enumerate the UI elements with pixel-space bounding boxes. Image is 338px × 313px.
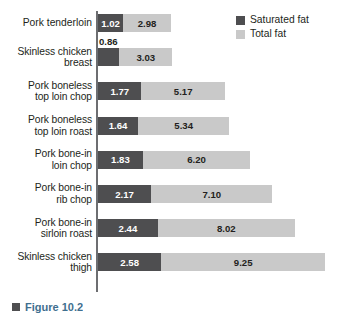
bar-segment-total-fat: 8.02 xyxy=(158,219,295,237)
bar-row: Pork boneless top loin roast1.645.34 xyxy=(0,117,338,148)
bar-value-total-fat: 8.02 xyxy=(217,223,236,234)
figure-caption-marker-icon xyxy=(12,303,20,311)
legend-item-saturated-fat: Saturated fat xyxy=(236,14,309,26)
bar-value-saturated-fat: 2.44 xyxy=(119,223,138,234)
bar-segment-total-fat: 9.25 xyxy=(161,253,325,271)
bar-value-saturated-fat: 1.83 xyxy=(111,154,130,165)
bar-segment-saturated-fat: 2.17 xyxy=(98,185,151,203)
bar-value-saturated-fat: 2.58 xyxy=(120,257,139,268)
bar-segment-saturated-fat: 1.02 xyxy=(98,14,123,32)
stacked-bar: 1.645.34 xyxy=(98,117,229,135)
bar-value-total-fat: 3.03 xyxy=(136,52,155,63)
stacked-bar: 1.022.98 xyxy=(98,14,171,32)
legend-item-total-fat: Total fat xyxy=(236,28,309,40)
bar-value-total-fat: 2.98 xyxy=(138,18,157,29)
category-label: Pork boneless top loin roast xyxy=(0,114,92,137)
bar-segment-total-fat: 3.03 xyxy=(119,48,172,66)
stacked-bar: 2.177.10 xyxy=(98,185,272,203)
bar-segment-saturated-fat: 1.83 xyxy=(98,151,143,169)
stacked-bar: 2.589.25 xyxy=(98,253,325,271)
bar-segment-saturated-fat: 1.77 xyxy=(98,82,141,100)
bar-value-saturated-fat: 1.02 xyxy=(101,18,120,29)
bar-value-saturated-fat: 0.86 xyxy=(99,36,118,47)
bar-row: Pork bone-in sirloin roast2.448.02 xyxy=(0,219,338,250)
category-label: Skinless chicken breast xyxy=(0,46,92,69)
category-label: Pork boneless top loin chop xyxy=(0,80,92,103)
bar-row: Pork bone-in rib chop2.177.10 xyxy=(0,185,338,216)
stacked-bar: 2.448.02 xyxy=(98,219,295,237)
bar-value-total-fat: 5.17 xyxy=(174,86,193,97)
legend-swatch-icon-saturated-fat xyxy=(236,16,245,25)
bar-segment-total-fat: 7.10 xyxy=(151,185,272,203)
bar-segment-total-fat: 5.17 xyxy=(141,82,224,100)
bar-segment-total-fat: 5.34 xyxy=(138,117,229,135)
figure-caption: Figure 10.2 xyxy=(12,300,83,313)
bar-segment-saturated-fat: 2.44 xyxy=(98,219,158,237)
bar-value-total-fat: 6.20 xyxy=(187,154,206,165)
bar-row: Pork boneless top loin chop1.775.17 xyxy=(0,82,338,113)
bar-value-total-fat: 9.25 xyxy=(234,257,253,268)
bar-value-saturated-fat: 1.77 xyxy=(110,86,129,97)
plot-area: Pork tenderloin1.022.98Skinless chicken … xyxy=(0,0,338,292)
fat-content-bar-chart: Pork tenderloin1.022.98Skinless chicken … xyxy=(0,0,338,313)
legend-label-total-fat: Total fat xyxy=(250,28,286,40)
category-label: Pork bone-in sirloin roast xyxy=(0,217,92,240)
category-label: Pork tenderloin xyxy=(0,17,92,29)
stacked-bar: 1.836.20 xyxy=(98,151,250,169)
bar-row: Skinless chicken thigh2.589.25 xyxy=(0,253,338,284)
bar-value-total-fat: 5.34 xyxy=(174,120,193,131)
chart-legend: Saturated fat Total fat xyxy=(236,14,309,42)
figure-caption-label: Figure 10.2 xyxy=(25,301,83,313)
category-label: Pork bone-in rib chop xyxy=(0,182,92,205)
category-label: Pork bone-in loin chop xyxy=(0,148,92,171)
bar-segment-saturated-fat: 1.64 xyxy=(98,117,138,135)
bar-value-saturated-fat: 1.64 xyxy=(109,120,128,131)
bar-segment-saturated-fat xyxy=(98,48,119,66)
bar-segment-total-fat: 6.20 xyxy=(143,151,250,169)
bar-segment-total-fat: 2.98 xyxy=(123,14,171,32)
bar-segment-saturated-fat: 2.58 xyxy=(98,253,161,271)
category-label: Skinless chicken thigh xyxy=(0,251,92,274)
bar-value-saturated-fat: 2.17 xyxy=(115,189,134,200)
legend-label-saturated-fat: Saturated fat xyxy=(250,14,309,26)
stacked-bar: 3.030.86 xyxy=(98,48,172,66)
bar-value-total-fat: 7.10 xyxy=(202,189,221,200)
legend-swatch-icon-total-fat xyxy=(236,30,245,39)
stacked-bar: 1.775.17 xyxy=(98,82,225,100)
bar-row: Pork bone-in loin chop1.836.20 xyxy=(0,151,338,182)
bar-row: Skinless chicken breast3.030.86 xyxy=(0,48,338,79)
